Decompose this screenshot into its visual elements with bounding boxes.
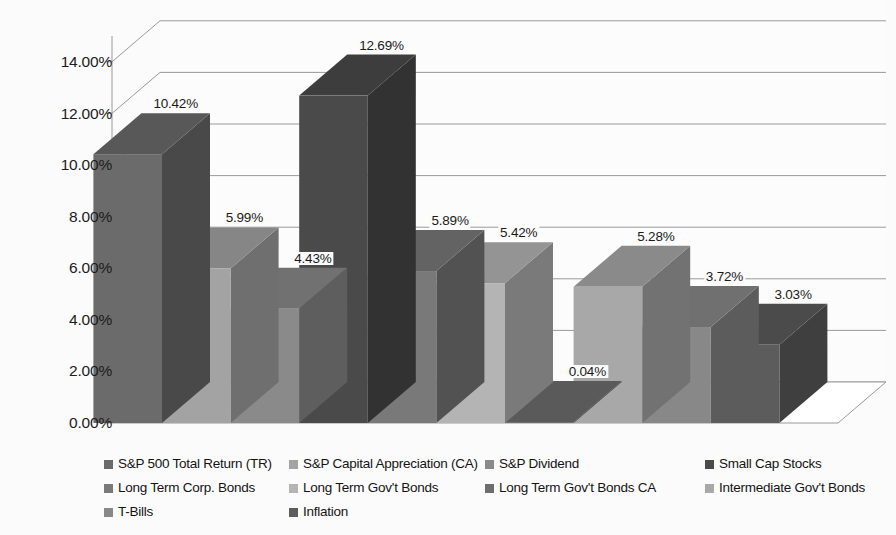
y-tick-label: 2.00%	[20, 363, 112, 379]
y-tick-label: 10.00%	[20, 157, 112, 173]
chart-legend: S&P 500 Total Return (TR) S&P Capital Ap…	[104, 452, 894, 530]
legend-swatch-icon	[289, 484, 298, 493]
legend-item-small-cap-stocks[interactable]: Small Cap Stocks	[705, 457, 895, 471]
legend-item-long-term-govt-bonds[interactable]: Long Term Gov't Bonds	[289, 481, 485, 495]
y-tick-label: 14.00%	[20, 54, 112, 70]
bar-chart: 14.00% 12.00% 10.00% 8.00% 6.00% 4.00% 2…	[0, 0, 896, 535]
legend-item-label: T-Bills	[118, 505, 153, 519]
y-axis: 14.00% 12.00% 10.00% 8.00% 6.00% 4.00% 2…	[0, 0, 112, 440]
legend-item-label: Inflation	[303, 505, 348, 519]
y-tick-label: 12.00%	[20, 106, 112, 122]
legend-item-sp-capital-appreciation[interactable]: S&P Capital Appreciation (CA)	[289, 457, 485, 471]
legend-row: S&P 500 Total Return (TR) S&P Capital Ap…	[104, 452, 894, 476]
legend-item-label: S&P Capital Appreciation (CA)	[303, 457, 478, 471]
legend-item-long-term-corp-bonds[interactable]: Long Term Corp. Bonds	[104, 481, 289, 495]
legend-item-label: Long Term Gov't Bonds CA	[499, 481, 656, 495]
data-label-long-term-govt-bonds-ca: 0.04%	[567, 365, 608, 379]
legend-item-label: S&P 500 Total Return (TR)	[118, 457, 272, 471]
legend-swatch-icon	[289, 508, 298, 517]
legend-item-intermediate-govt-bonds[interactable]: Intermediate Gov't Bonds	[705, 481, 895, 495]
legend-item-inflation[interactable]: Inflation	[289, 505, 485, 519]
data-label-sp-capital-appreciation: 5.99%	[224, 211, 265, 225]
data-label-long-term-govt-bonds: 5.42%	[498, 226, 539, 240]
legend-item-t-bills[interactable]: T-Bills	[104, 505, 289, 519]
y-tick-label: 8.00%	[20, 209, 112, 225]
legend-swatch-icon	[104, 508, 113, 517]
legend-swatch-icon	[485, 484, 494, 493]
data-label-sp500-total-return: 10.42%	[151, 97, 200, 111]
legend-item-label: Long Term Corp. Bonds	[118, 481, 255, 495]
data-label-long-term-corp-bonds: 5.89%	[429, 214, 470, 228]
legend-row: T-Bills Inflation	[104, 500, 894, 524]
legend-item-sp500-total-return[interactable]: S&P 500 Total Return (TR)	[104, 457, 289, 471]
legend-swatch-icon	[485, 460, 494, 469]
legend-swatch-icon	[104, 460, 113, 469]
legend-item-label: Long Term Gov't Bonds	[303, 481, 438, 495]
legend-item-label: Intermediate Gov't Bonds	[719, 481, 865, 495]
legend-item-label: S&P Dividend	[499, 457, 579, 471]
legend-swatch-icon	[705, 484, 714, 493]
data-label-small-cap-stocks: 12.69%	[357, 39, 406, 53]
legend-item-label: Small Cap Stocks	[719, 457, 822, 471]
data-label-sp-dividend: 4.43%	[292, 252, 333, 266]
legend-swatch-icon	[289, 460, 298, 469]
data-label-intermediate-govt-bonds: 5.28%	[635, 230, 676, 244]
y-tick-label: 6.00%	[20, 260, 112, 276]
legend-item-long-term-govt-bonds-ca[interactable]: Long Term Gov't Bonds CA	[485, 481, 705, 495]
legend-row: Long Term Corp. Bonds Long Term Gov't Bo…	[104, 476, 894, 500]
y-tick-label: 0.00%	[20, 415, 112, 431]
data-label-inflation: 3.03%	[772, 288, 813, 302]
legend-swatch-icon	[705, 460, 714, 469]
legend-swatch-icon	[104, 484, 113, 493]
data-label-t-bills: 3.72%	[704, 270, 745, 284]
y-tick-label: 4.00%	[20, 312, 112, 328]
legend-item-sp-dividend[interactable]: S&P Dividend	[485, 457, 705, 471]
